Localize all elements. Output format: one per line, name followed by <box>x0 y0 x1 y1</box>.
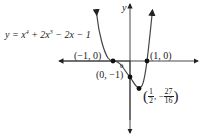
point-0-neg1 <box>128 75 133 80</box>
y-axis-label: y <box>122 3 126 13</box>
point-label-1-0: (1, 0) <box>150 51 172 61</box>
point-minimum <box>137 86 142 91</box>
point-neg1-0 <box>111 59 116 64</box>
function-graph <box>0 0 201 136</box>
point-label-neg1-0: (−1, 0) <box>74 51 101 61</box>
point-1-0 <box>145 59 150 64</box>
theta-label: θ <box>120 63 123 70</box>
minimum-point-label: (12, −2716) <box>143 88 179 105</box>
equation-label: y = x4 + 2x3 − 2x − 1 <box>5 29 91 40</box>
point-label-0-neg1: (0, −1) <box>96 70 123 80</box>
